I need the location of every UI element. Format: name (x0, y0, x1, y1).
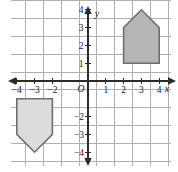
y-tick-label: −4 (74, 148, 84, 158)
y-tick-label: 2 (79, 41, 84, 51)
y-tick-label: −3 (74, 130, 84, 140)
coordinate-plane-svg: −4−3−21234 4321−2−3−4 O x y (0, 0, 178, 172)
x-tick-label: 4 (157, 85, 162, 95)
origin-label: O (78, 84, 85, 94)
x-tick-label: −4 (12, 85, 22, 95)
x-axis-label: x (164, 83, 170, 94)
y-tick-label: 1 (79, 59, 84, 69)
coordinate-plane-figure: −4−3−21234 4321−2−3−4 O x y (0, 0, 178, 172)
x-tick-label: 3 (139, 85, 144, 95)
y-axis-label: y (94, 8, 100, 19)
y-tick-label: 3 (79, 23, 84, 33)
x-tick-label: −2 (47, 85, 57, 95)
x-tick-label: 2 (121, 85, 126, 95)
y-tick-label: −2 (74, 112, 84, 122)
y-tick-label: 4 (79, 5, 84, 15)
x-tick-label: −3 (30, 85, 40, 95)
x-tick-label: 1 (103, 85, 108, 95)
